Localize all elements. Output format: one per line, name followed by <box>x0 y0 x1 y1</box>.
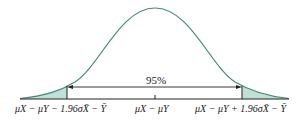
left-bound-label: μX − μY − 1.96σX̄ − Ȳ <box>15 103 106 114</box>
center-label: μX − μY <box>135 103 168 114</box>
interval-percentage-label: 95% <box>146 74 166 86</box>
right-bound-label: μX − μY + 1.96σX̄ − Ȳ <box>195 103 286 114</box>
